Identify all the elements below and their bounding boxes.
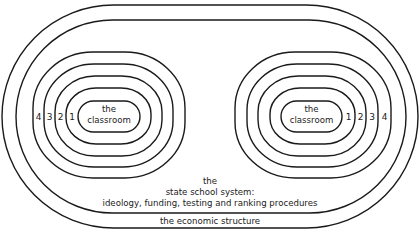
economic-structure-label: the economic structure bbox=[160, 216, 260, 226]
state-school-label-line-1: the bbox=[203, 176, 217, 186]
left-ring-2-number: 2 bbox=[58, 112, 64, 122]
left-ring-4-number: 4 bbox=[36, 112, 42, 122]
left-core-label-line-2: classroom bbox=[87, 115, 131, 125]
left-classroom-group: the classroom 1 2 3 4 bbox=[33, 52, 185, 178]
right-ring-4-number: 4 bbox=[382, 112, 388, 122]
state-school-label-line-3: ideology, funding, testing and ranking p… bbox=[103, 198, 318, 208]
right-ring-2-number: 2 bbox=[358, 112, 364, 122]
left-ring-3-number: 3 bbox=[47, 112, 53, 122]
nested-context-diagram: the classroom 1 2 3 4 the classroom 1 2 … bbox=[0, 0, 419, 231]
right-core-label-line-2: classroom bbox=[290, 115, 334, 125]
left-ring-1-number: 1 bbox=[69, 112, 75, 122]
left-core-label-line-1: the bbox=[102, 104, 116, 114]
right-classroom-group: the classroom 1 2 3 4 bbox=[235, 52, 391, 178]
right-core-label-line-1: the bbox=[304, 104, 318, 114]
right-ring-3-number: 3 bbox=[369, 112, 375, 122]
state-school-label-line-2: state school system: bbox=[166, 187, 255, 197]
right-ring-1-number: 1 bbox=[346, 112, 352, 122]
